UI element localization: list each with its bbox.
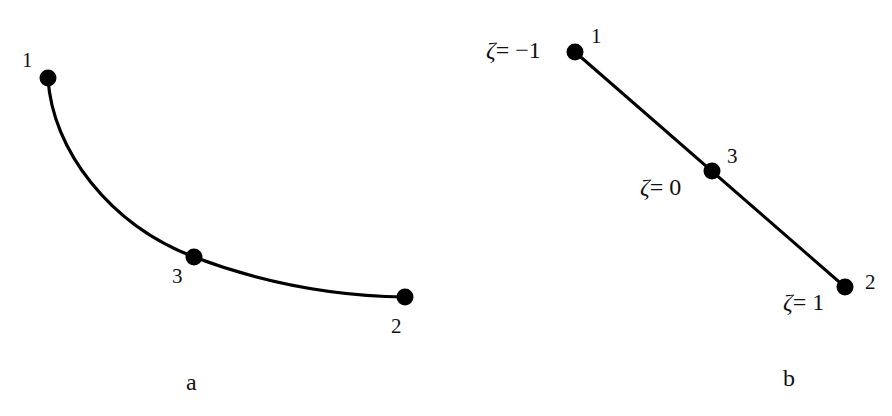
zeta-label-node-2: ζ= 1 — [783, 290, 824, 314]
caption-b: b — [783, 366, 795, 390]
zeta-label-node-1: ζ= −1 — [486, 38, 541, 62]
zeta-symbol: ζ — [486, 37, 496, 63]
node-2-b — [837, 279, 854, 296]
zeta-value: = 1 — [793, 289, 825, 315]
zeta-value: = 0 — [650, 174, 682, 200]
zeta-symbol: ζ — [640, 174, 650, 200]
node-1-a — [40, 70, 57, 87]
node-label-3-a: 3 — [172, 266, 183, 287]
node-1-b — [567, 44, 584, 61]
caption-a: a — [186, 370, 197, 394]
node-label-2-b: 2 — [865, 272, 876, 293]
zeta-label-node-3: ζ= 0 — [640, 175, 681, 199]
node-label-2-a: 2 — [391, 316, 402, 337]
figure-canvas: 1 3 2 a 1 ζ= −1 3 ζ= 0 2 ζ= 1 b — [0, 0, 892, 416]
node-label-3-b: 3 — [727, 146, 738, 167]
node-label-1-b: 1 — [591, 26, 602, 47]
zeta-value: = −1 — [496, 37, 541, 63]
element-diagram — [0, 0, 892, 416]
zeta-symbol: ζ — [783, 289, 793, 315]
node-3-b — [704, 163, 721, 180]
curved-element-edge — [48, 78, 405, 297]
node-label-1-a: 1 — [22, 50, 33, 71]
node-2-a — [397, 289, 414, 306]
node-3-a — [186, 249, 203, 266]
